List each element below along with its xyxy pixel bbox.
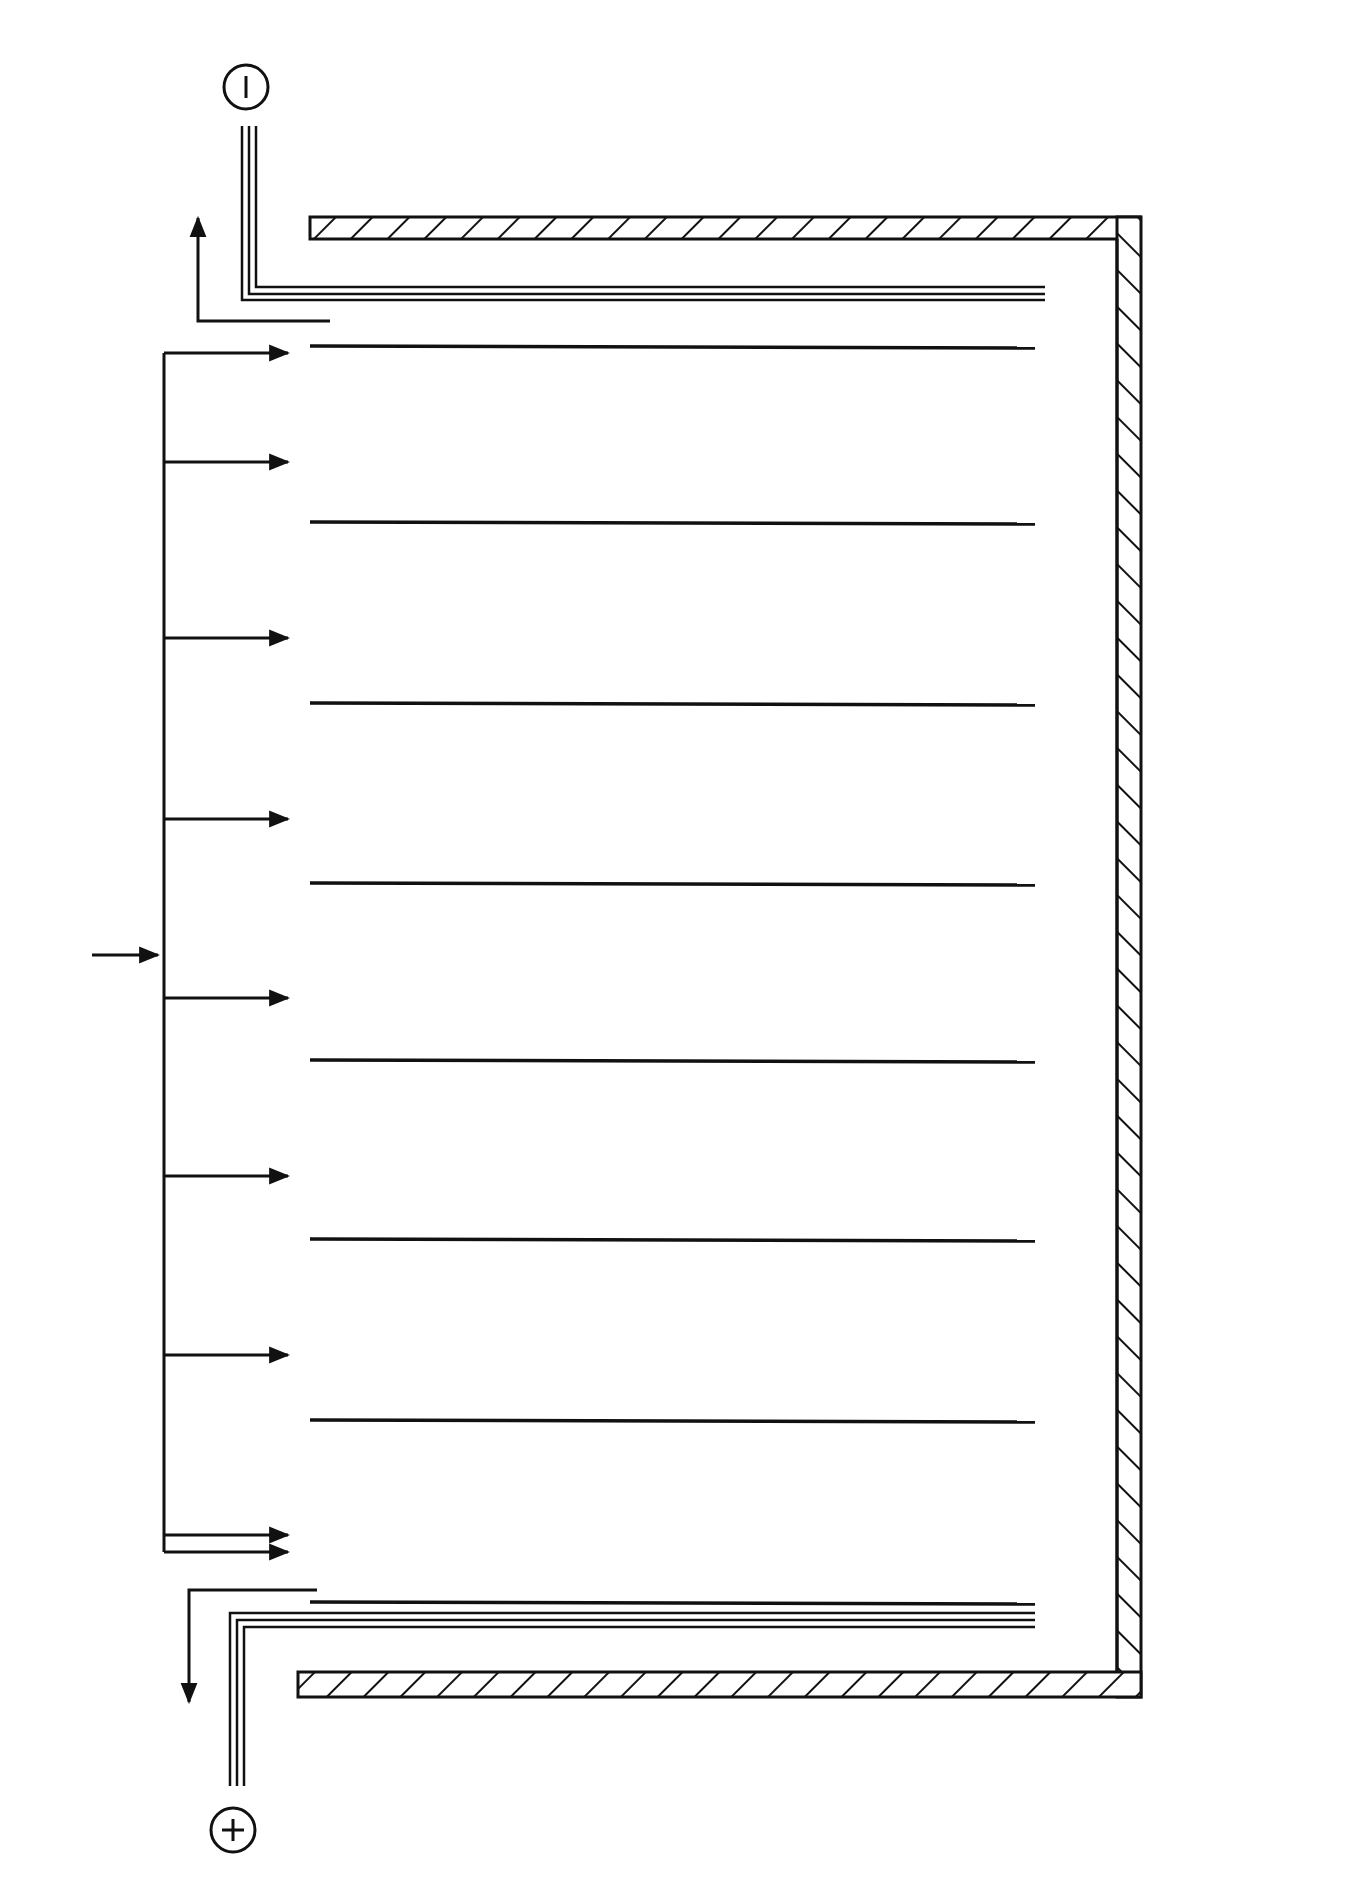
membrane-cation-4: [310, 1420, 1035, 1422]
hatched-housing-frame: [298, 217, 1141, 1697]
membrane-anion-1: [310, 522, 1035, 524]
membrane-anion-2: [310, 883, 1035, 885]
housing-top-wall: [310, 217, 1140, 239]
ed-stack-diagram: [0, 0, 1366, 1889]
membrane-anion-4: [310, 1602, 1035, 1604]
membrane-anion-3: [310, 1239, 1035, 1241]
housing-bottom-wall: [298, 1672, 1141, 1697]
membranes: [310, 346, 1035, 1604]
cathode-electrode: [224, 65, 1045, 300]
housing-right-wall: [1117, 217, 1141, 1697]
membrane-cation-3: [310, 1060, 1035, 1062]
anode-electrode: [211, 1613, 1035, 1852]
membrane-cation-1: [310, 346, 1035, 348]
membrane-cation-2: [310, 703, 1035, 705]
nacl-feed-manifold: [92, 353, 288, 1552]
